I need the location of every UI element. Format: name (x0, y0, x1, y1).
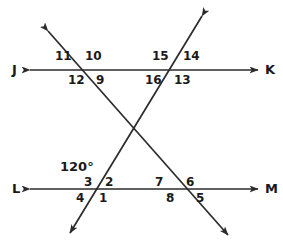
angle-label-14: 14 (183, 50, 200, 62)
angle-label-16: 16 (145, 74, 162, 86)
given-angle-measure: 120° (60, 160, 94, 173)
angle-label-4: 4 (76, 192, 84, 204)
angle-label-15: 15 (152, 50, 169, 62)
angle-label-7: 7 (155, 176, 163, 188)
endpoint-label-j: J (12, 63, 17, 76)
angle-label-5: 5 (196, 192, 204, 204)
angle-label-11: 11 (55, 50, 72, 62)
angle-label-13: 13 (174, 74, 191, 86)
endpoint-label-k: K (265, 63, 275, 76)
angle-label-3: 3 (84, 176, 92, 188)
geometry-diagram: J K L M 11 10 12 9 15 14 16 13 120° 3 2 … (0, 0, 283, 249)
endpoint-label-m: M (265, 182, 278, 195)
endpoint-label-l: L (12, 182, 20, 195)
angle-label-1: 1 (99, 192, 107, 204)
geometry-canvas (0, 0, 283, 249)
angle-label-10: 10 (85, 50, 102, 62)
angle-label-2: 2 (105, 176, 113, 188)
angle-label-12: 12 (68, 74, 85, 86)
angle-label-9: 9 (96, 74, 104, 86)
angle-label-6: 6 (186, 176, 194, 188)
angle-label-8: 8 (166, 192, 174, 204)
